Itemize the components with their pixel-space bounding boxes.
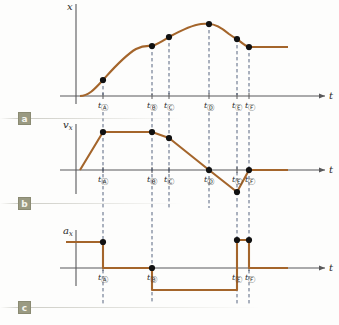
- velocity-ticklabel-b: tⒷ: [147, 174, 158, 186]
- position-plot-svg: x t tⒶ tⒷ: [0, 0, 339, 112]
- acceleration-point-a: [100, 239, 106, 245]
- acceleration-x-axis-arrow: [319, 266, 325, 271]
- velocity-point-b: [149, 129, 155, 135]
- position-ticklabel-f: tⒻ: [245, 100, 256, 112]
- panel-chip-c: c: [18, 301, 31, 314]
- acceleration-ticklabel-f: tⒻ: [245, 272, 256, 284]
- velocity-point-e: [234, 189, 240, 195]
- panel-label-row-c: c: [0, 300, 339, 314]
- position-point-d: [206, 21, 212, 27]
- velocity-ticklabel-c: tⒸ: [164, 174, 175, 186]
- position-point-a: [100, 77, 106, 83]
- panel-rule-right-b: [31, 203, 181, 204]
- velocity-point-d: [206, 167, 212, 173]
- position-point-f: [246, 44, 252, 50]
- panel-rule-right-c: [31, 307, 261, 308]
- acceleration-point-b: [149, 265, 155, 271]
- velocity-ticklabel-d: tⒹ: [204, 174, 215, 186]
- panel-rule-right-a: [31, 118, 181, 119]
- position-ticklabel-a: tⒶ: [98, 100, 109, 112]
- panel-chip-b: b: [18, 197, 31, 210]
- panel-chip-a: a: [18, 112, 31, 125]
- acceleration-point-f: [246, 237, 252, 243]
- velocity-point-c: [166, 135, 172, 141]
- position-x-axis-label: t: [329, 90, 334, 101]
- acceleration-ticklabel-b: tⒷ: [147, 272, 158, 284]
- panel-rule-left-b: [0, 203, 18, 204]
- velocity-curve: [80, 132, 288, 192]
- velocity-ticklabel-e: tⒺ: [232, 174, 243, 186]
- position-point-c: [166, 34, 172, 40]
- position-vs-time-chart: x t tⒶ tⒷ: [0, 0, 339, 112]
- velocity-ticklabel-f: tⒻ: [245, 174, 256, 186]
- panel-label-row-b: b: [0, 196, 339, 210]
- acceleration-x-axis-label: t: [329, 262, 334, 273]
- position-point-e: [234, 36, 240, 42]
- velocity-ticklabel-a: tⒶ: [98, 174, 109, 186]
- panel-rule-left-a: [0, 118, 18, 119]
- velocity-point-a: [100, 129, 106, 135]
- motion-graphs-figure: x t tⒶ tⒷ: [0, 0, 339, 325]
- velocity-x-axis-label: t: [329, 164, 334, 175]
- position-y-axis-label: x: [67, 1, 73, 12]
- acceleration-ticklabel-a: tⒶ: [98, 272, 109, 284]
- position-ticklabel-d: tⒹ: [204, 100, 215, 112]
- position-curve: [80, 24, 288, 96]
- position-point-b: [149, 43, 155, 49]
- position-ticklabel-e: tⒺ: [232, 100, 243, 112]
- velocity-point-f: [246, 167, 252, 173]
- panel-label-row-a: a: [0, 111, 339, 125]
- velocity-x-axis-arrow: [319, 168, 325, 173]
- acceleration-point-e: [234, 237, 240, 243]
- acceleration-y-axis-label: ax: [63, 225, 73, 238]
- position-ticklabel-c: tⒸ: [164, 100, 175, 112]
- panel-rule-left-c: [0, 307, 18, 308]
- acceleration-ticklabel-e: tⒺ: [232, 272, 243, 284]
- position-x-axis-arrow: [319, 94, 325, 99]
- position-ticklabel-b: tⒷ: [147, 100, 158, 112]
